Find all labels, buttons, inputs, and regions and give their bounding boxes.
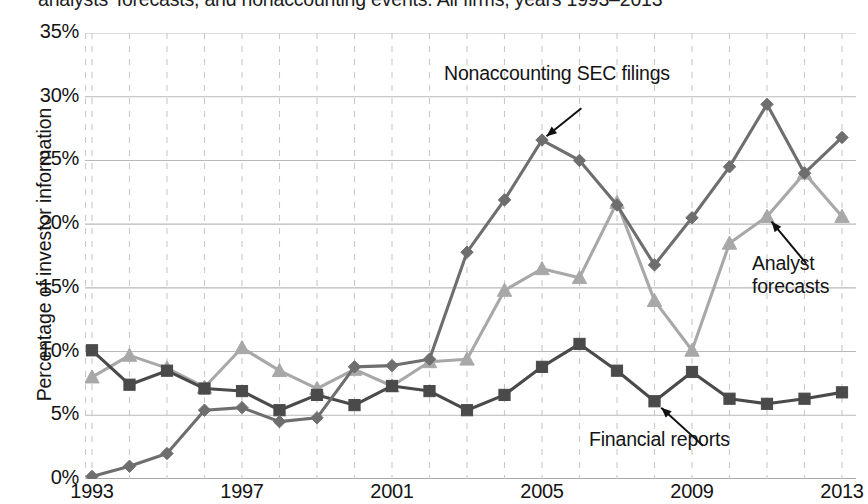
x-tick-2009: 2009 xyxy=(632,480,752,503)
marker-financial-reports-2013 xyxy=(836,387,847,398)
marker-financial-reports-2000 xyxy=(349,399,360,410)
marker-analyst-forecasts-2008 xyxy=(647,293,661,306)
x-tick-2001: 2001 xyxy=(332,480,452,503)
marker-financial-reports-2008 xyxy=(649,396,660,407)
x-tick-2005: 2005 xyxy=(482,480,602,503)
marker-financial-reports-1994 xyxy=(124,379,135,390)
marker-financial-reports-1993 xyxy=(86,345,97,356)
marker-nonaccounting-sec-filings-1994 xyxy=(123,460,135,472)
marker-analyst-forecasts-1997 xyxy=(235,341,249,354)
x-tick-1997: 1997 xyxy=(182,480,302,503)
series-canvas xyxy=(85,33,856,479)
marker-financial-reports-1999 xyxy=(311,389,322,400)
marker-analyst-forecasts-2005 xyxy=(535,262,549,275)
marker-nonaccounting-sec-filings-1993 xyxy=(86,470,98,479)
marker-financial-reports-2012 xyxy=(799,393,810,404)
marker-financial-reports-2010 xyxy=(724,393,735,404)
marker-financial-reports-1995 xyxy=(161,365,172,376)
marker-nonaccounting-sec-filings-1998 xyxy=(273,415,285,427)
marker-financial-reports-2005 xyxy=(536,361,547,372)
marker-analyst-forecasts-1993 xyxy=(85,370,99,383)
marker-financial-reports-1998 xyxy=(274,405,285,416)
marker-financial-reports-1997 xyxy=(236,385,247,396)
marker-analyst-forecasts-2004 xyxy=(497,283,511,296)
marker-financial-reports-2006 xyxy=(574,338,585,349)
plot-area xyxy=(85,33,856,479)
marker-financial-reports-2011 xyxy=(761,398,772,409)
marker-financial-reports-2009 xyxy=(686,366,697,377)
marker-financial-reports-1996 xyxy=(199,383,210,394)
marker-nonaccounting-sec-filings-1997 xyxy=(236,401,248,413)
marker-analyst-forecasts-1994 xyxy=(122,348,136,361)
x-tick-2013: 2013 xyxy=(782,480,868,503)
marker-financial-reports-2007 xyxy=(611,365,622,376)
marker-financial-reports-2002 xyxy=(424,385,435,396)
marker-nonaccounting-sec-filings-2001 xyxy=(386,359,398,371)
marker-financial-reports-2003 xyxy=(461,405,472,416)
marker-financial-reports-2004 xyxy=(499,389,510,400)
annotation-nonaccounting-sec-filings: Nonaccounting SEC filings xyxy=(444,62,670,85)
x-tick-1993: 1993 xyxy=(32,480,152,503)
annotation-analyst-forecasts: Analyst forecasts xyxy=(752,252,829,298)
marker-financial-reports-2001 xyxy=(386,380,397,391)
marker-analyst-forecasts-1998 xyxy=(272,363,286,376)
annotation-financial-reports: Financial reports xyxy=(589,428,730,451)
